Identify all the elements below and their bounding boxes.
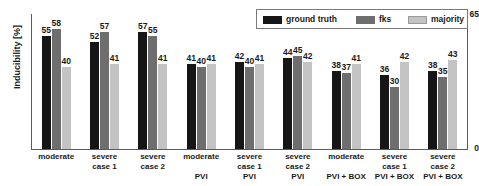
bar: 36 [380, 75, 389, 149]
bar: 38 [428, 71, 437, 149]
bar-value-label: 40 [196, 57, 205, 66]
bar-value-label: 42 [400, 52, 409, 61]
x-axis-label-line2: case 2 [274, 162, 322, 172]
bar: 41 [158, 64, 167, 149]
bar: 45 [293, 56, 302, 149]
bar: 41 [110, 64, 119, 149]
bar: 37 [342, 73, 351, 149]
bar-value-label: 52 [90, 32, 99, 41]
x-axis-label: severecase 2 [129, 152, 177, 171]
bar-value-label: 57 [138, 22, 147, 31]
bar: 52 [90, 42, 99, 149]
bar-value-label: 42 [303, 52, 312, 61]
x-axis-label-line1: severe [129, 152, 177, 162]
bars-layer: 5558405257415755414140414240414445423837… [32, 15, 467, 149]
bar-group: 525741 [90, 15, 119, 149]
x-axis-label-line1: severe [274, 152, 322, 162]
legend-item-fks: fks [356, 14, 391, 25]
legend-label-fks: fks [379, 15, 391, 24]
bar: 44 [283, 58, 292, 149]
bar-value-label: 37 [341, 63, 350, 72]
x-axis-label-line2: case 1 [370, 162, 418, 172]
bar-group: 575541 [138, 15, 167, 149]
bar-value-label: 41 [186, 54, 195, 63]
bar: 35 [438, 77, 447, 149]
bar-value-label: 41 [255, 54, 264, 63]
legend-swatch-icon-majority [408, 16, 427, 24]
x-axis-label: moderatePVI [177, 152, 225, 182]
bar: 58 [52, 29, 61, 149]
x-axis-label-line1: severe [419, 152, 467, 162]
x-axis-label-line2: case 1 [80, 162, 128, 172]
bar: 40 [245, 67, 254, 149]
x-axis-label-line2: case 2 [419, 162, 467, 172]
x-axis-label: moderate [32, 152, 80, 162]
bar-value-label: 40 [61, 57, 70, 66]
legend-swatch-icon-ground-truth [263, 16, 282, 24]
x-axis-label: severecase 2PVI + BOX [419, 152, 467, 182]
legend-item-ground-truth: ground truth [263, 14, 337, 25]
bar: 41 [187, 64, 196, 149]
legend-label-majority: majority [431, 15, 464, 24]
bar-value-label: 38 [428, 61, 437, 70]
legend-item-majority: majority [408, 14, 464, 25]
x-axis-label-line1: severe [370, 152, 418, 162]
bar: 41 [255, 64, 264, 149]
bar-value-label: 43 [448, 50, 457, 59]
bar-value-label: 35 [438, 67, 447, 76]
legend-swatch-icon-fks [356, 16, 375, 24]
bar: 55 [148, 36, 157, 149]
bar-value-label: 41 [110, 54, 119, 63]
x-axis-label: severecase 2PVI [274, 152, 322, 182]
bar-value-label: 41 [351, 54, 360, 63]
bar-value-label: 38 [331, 61, 340, 70]
bar-group: 444542 [283, 15, 312, 149]
bar: 42 [400, 62, 409, 149]
legend-label-ground-truth: ground truth [286, 15, 337, 24]
x-axis-label-group: PVI [274, 172, 322, 182]
bar-group: 383741 [332, 15, 361, 149]
bar-group: 363042 [380, 15, 409, 149]
x-axis-label-line1: moderate [322, 152, 370, 162]
bar: 42 [303, 62, 312, 149]
x-axis-label-group: PVI + BOX [419, 172, 467, 182]
bar: 41 [207, 64, 216, 149]
bar-value-label: 58 [51, 19, 60, 28]
bar-group: 424041 [235, 15, 264, 149]
bar-group: 555840 [42, 15, 71, 149]
x-axis-label: severecase 1 [80, 152, 128, 171]
bar: 30 [390, 87, 399, 149]
bar-value-label: 41 [158, 54, 167, 63]
bar: 38 [332, 71, 341, 149]
bar: 57 [100, 32, 109, 150]
x-axis-label-line1: severe [225, 152, 273, 162]
bar: 55 [42, 36, 51, 149]
chart-legend: ground truth fks majority [256, 9, 468, 29]
x-axis-label-group: PVI + BOX [322, 172, 370, 182]
bar: 42 [235, 62, 244, 149]
x-axis-label-line2: case 2 [129, 162, 177, 172]
bar: 57 [138, 32, 147, 150]
x-axis-label-line1: moderate [32, 152, 80, 162]
bar-value-label: 45 [293, 46, 302, 55]
bar-group: 383543 [428, 15, 457, 149]
x-axis-label-group: PVI [177, 172, 225, 182]
bar-group: 414041 [187, 15, 216, 149]
x-axis-label-group: PVI [225, 172, 273, 182]
y-axis-label: Inducibility [%] [12, 2, 22, 112]
x-axis-label: severecase 1PVI + BOX [370, 152, 418, 182]
bar-value-label: 55 [148, 26, 157, 35]
bar-chart: Inducibility [%] 65 0 555840525741575541… [0, 0, 479, 186]
x-axis-label-line1: moderate [177, 152, 225, 162]
x-axis-labels: moderateseverecase 1severecase 2moderate… [32, 152, 467, 186]
bar-value-label: 41 [206, 54, 215, 63]
bar-value-label: 42 [235, 52, 244, 61]
bar: 40 [197, 67, 206, 149]
x-axis-label: moderatePVI + BOX [322, 152, 370, 182]
x-axis-label-line1: severe [80, 152, 128, 162]
bar: 43 [448, 60, 457, 149]
x-axis-label-group: PVI + BOX [370, 172, 418, 182]
bar-value-label: 40 [245, 57, 254, 66]
bar-value-label: 55 [41, 26, 50, 35]
bar: 40 [62, 67, 71, 149]
